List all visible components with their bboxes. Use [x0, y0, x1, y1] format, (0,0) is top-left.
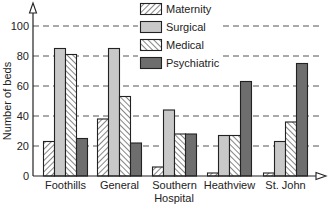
bar-group-st-john — [264, 64, 308, 177]
x-category-label: St. John — [265, 179, 305, 191]
bar-medical — [286, 122, 297, 176]
y-axis-arrow-icon — [30, 3, 37, 13]
bar-surgical — [55, 49, 66, 177]
bar-group-southern — [153, 110, 197, 176]
bar-surgical — [275, 142, 286, 177]
y-tick-label: 100 — [11, 20, 29, 32]
legend-swatch — [141, 58, 162, 69]
y-tick-label: 40 — [17, 110, 29, 122]
bar-maternity — [44, 142, 55, 177]
bar-psychiatric — [186, 134, 197, 176]
legend-label: Surgical — [166, 21, 206, 33]
legend-label: Psychiatric — [166, 57, 220, 69]
x-category-label: Heathview — [204, 179, 255, 191]
legend-label: Maternity — [166, 3, 212, 15]
legend-swatch — [141, 4, 162, 15]
bar-surgical — [109, 49, 120, 177]
legend-item-surgical: Surgical — [138, 19, 220, 34]
x-category-label: General — [100, 179, 139, 191]
bar-maternity — [98, 119, 109, 176]
bar-medical — [66, 55, 77, 177]
legend-swatch — [141, 40, 162, 51]
bar-maternity — [153, 167, 164, 176]
y-tick-labels: 020406080100 — [11, 20, 29, 182]
x-category-label: Southern — [152, 179, 197, 191]
x-category-labels: FoothillsGeneralSouthernHeathviewSt. Joh… — [45, 179, 306, 191]
legend: MaternitySurgicalMedicalPsychiatric — [138, 1, 220, 70]
legend-item-psychiatric: Psychiatric — [138, 55, 220, 70]
bar-group-foothills — [44, 49, 88, 177]
y-tick-label: 80 — [17, 50, 29, 62]
legend-swatch — [141, 22, 162, 33]
bar-psychiatric — [77, 139, 88, 177]
bar-surgical — [219, 136, 230, 177]
y-tick-label: 20 — [17, 140, 29, 152]
bar-group-general — [98, 49, 142, 177]
bar-group-heathview — [208, 82, 252, 177]
bar-surgical — [164, 110, 175, 176]
bar-psychiatric — [131, 143, 142, 176]
legend-item-maternity: Maternity — [138, 1, 220, 16]
y-axis-label: Number of beds — [1, 61, 13, 140]
y-tick-label: 0 — [23, 170, 29, 182]
x-axis-label: Hospital — [154, 192, 194, 204]
x-axis-arrow-icon — [316, 173, 326, 180]
y-tick-label: 60 — [17, 80, 29, 92]
bar-medical — [120, 97, 131, 177]
legend-item-medical: Medical — [138, 37, 220, 52]
bed-count-bar-chart: 020406080100 FoothillsGeneralSouthernHea… — [0, 0, 331, 207]
legend-label: Medical — [166, 39, 204, 51]
x-category-label: Foothills — [45, 179, 86, 191]
bar-psychiatric — [241, 82, 252, 177]
bar-medical — [230, 136, 241, 177]
bar-medical — [175, 134, 186, 176]
bar-psychiatric — [297, 64, 308, 177]
